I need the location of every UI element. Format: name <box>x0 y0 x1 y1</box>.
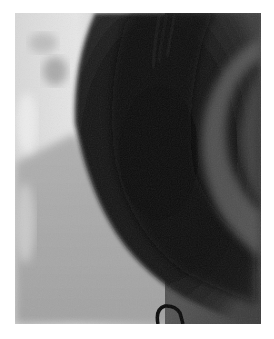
xray-image <box>15 13 261 324</box>
xray-render <box>15 13 261 324</box>
